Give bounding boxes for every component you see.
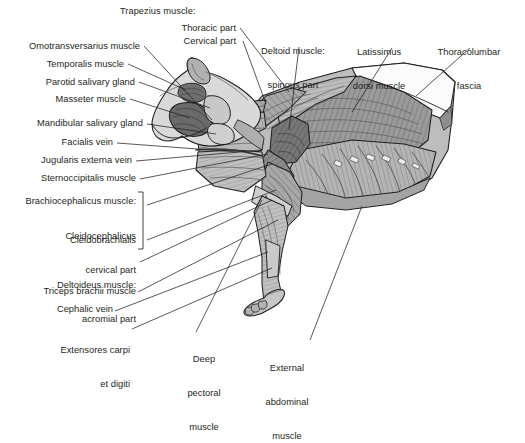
label-trapezius-group: Trapezius muscle: bbox=[120, 6, 195, 17]
label-latissimus-dorsi: Latissimus dorsi muscle bbox=[341, 24, 417, 104]
leader-external-abdominal bbox=[310, 206, 362, 340]
label-parotid-salivary-gland: Parotid salivary gland bbox=[0, 77, 135, 88]
label-deltoid-spinous-line2: spinous part bbox=[243, 80, 343, 91]
label-thoracolumbar-fascia-line2: fascia bbox=[418, 81, 520, 92]
label-omotransversarius: Omotransversarius muscle bbox=[0, 41, 140, 52]
label-jugularis-externa-vein: Jugularis externa vein bbox=[0, 155, 132, 166]
leader-deltoideus-acromial bbox=[140, 200, 272, 262]
label-mandibular-salivary-gland: Mandibular salivary gland bbox=[0, 118, 143, 129]
label-temporalis: Temporalis muscle bbox=[0, 59, 124, 70]
label-brachiocephalicus: Brachiocephalicus muscle: bbox=[0, 196, 136, 207]
label-extensores-carpi-line1: Extensores carpi bbox=[0, 345, 130, 356]
label-thoracolumbar-fascia-line1: Thoracolumbar bbox=[418, 47, 520, 58]
label-deltoid-spinous: Deltoid muscle: spinous part bbox=[243, 23, 343, 103]
label-external-abdominal-line3: muscle bbox=[242, 431, 332, 442]
label-trapezius-thoracic: Thoracic part bbox=[96, 23, 236, 34]
label-latissimus-dorsi-line1: Latissimus bbox=[341, 47, 417, 58]
label-deep-pectoral: Deep pectoral muscle bbox=[172, 331, 236, 443]
label-external-abdominal-line2: abdominal bbox=[242, 397, 332, 408]
label-cleidobrachialis: Cleidobrachialis bbox=[0, 235, 136, 246]
label-masseter: Masseter muscle bbox=[0, 94, 126, 105]
label-external-abdominal: External abdominal muscle bbox=[242, 340, 332, 443]
label-deltoid-spinous-line1: Deltoid muscle: bbox=[243, 46, 343, 57]
label-sternoccipitalis: Sternoccipitalis muscle bbox=[0, 173, 136, 184]
label-latissimus-dorsi-line2: dorsi muscle bbox=[341, 81, 417, 92]
label-extensores-carpi: Extensores carpi et digiti bbox=[0, 322, 130, 402]
label-deep-pectoral-line3: muscle bbox=[172, 422, 236, 433]
label-external-abdominal-line1: External bbox=[242, 363, 332, 374]
label-deep-pectoral-line2: pectoral bbox=[172, 388, 236, 399]
extensores-carpi-shape bbox=[266, 240, 280, 278]
label-facialis-vein: Facialis vein bbox=[0, 137, 113, 148]
label-deep-pectoral-line1: Deep bbox=[172, 354, 236, 365]
label-thoracolumbar-fascia: Thoracolumbar fascia bbox=[418, 24, 520, 104]
label-extensores-carpi-line2: et digiti bbox=[0, 379, 130, 390]
leader-temporalis bbox=[128, 64, 186, 90]
label-cephalic-vein: Cephalic vein bbox=[0, 304, 113, 315]
label-triceps-brachii: Triceps brachii muscle bbox=[0, 286, 136, 297]
brachiocephalicus-bracket bbox=[138, 192, 143, 249]
leader-cephalic-vein bbox=[115, 252, 268, 311]
